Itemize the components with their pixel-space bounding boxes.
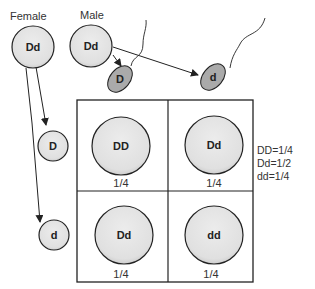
- egg-arrow-d: [32, 123, 40, 222]
- egg-D-allele: D: [49, 140, 57, 152]
- svg-text:1/4: 1/4: [113, 177, 128, 189]
- svg-text:1/4: 1/4: [113, 268, 128, 280]
- male-label: Male: [80, 9, 104, 21]
- svg-text:Dd: Dd: [207, 139, 222, 151]
- sperm-arrow-D: [113, 55, 121, 66]
- sperm-D-tail: [131, 20, 146, 66]
- egg-d-allele: d: [51, 229, 58, 241]
- egg-arrow-d-line: [26, 68, 32, 123]
- svg-text:1/4: 1/4: [206, 177, 221, 189]
- sperm-D-allele: D: [116, 73, 124, 85]
- svg-text:dd: dd: [207, 229, 220, 241]
- male-genotype: Dd: [84, 40, 99, 52]
- female-label: Female: [10, 10, 47, 22]
- punnett-cell-DD: DD 1/4: [92, 117, 150, 189]
- ratio-Dd: Dd=1/2: [257, 157, 293, 170]
- punnett-cell-Dd-top: Dd 1/4: [185, 116, 243, 189]
- punnett-cell-Dd-bottom: Dd 1/4: [95, 206, 153, 280]
- female-genotype: Dd: [26, 41, 41, 53]
- egg-arrow-D: [36, 67, 46, 125]
- svg-text:1/4: 1/4: [203, 268, 218, 280]
- sperm-d-allele: d: [210, 71, 217, 83]
- svg-text:DD: DD: [113, 140, 129, 152]
- sperm-d-tail: [230, 18, 265, 68]
- ratio-dd: dd=1/4: [257, 170, 293, 183]
- punnett-cell-dd: dd 1/4: [185, 206, 243, 280]
- ratio-DD: DD=1/4: [257, 144, 293, 157]
- genotype-ratios: DD=1/4 Dd=1/2 dd=1/4: [257, 144, 293, 183]
- svg-text:Dd: Dd: [117, 229, 132, 241]
